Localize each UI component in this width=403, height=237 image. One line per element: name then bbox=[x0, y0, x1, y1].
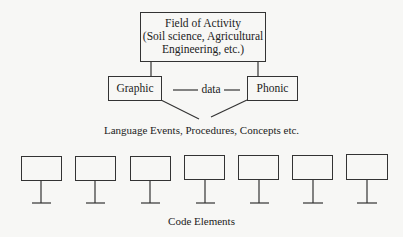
field-of-activity-examples-line2: Engineering, etc.) bbox=[140, 43, 266, 56]
phonic-label: Phonic bbox=[247, 82, 298, 95]
code-element-stems bbox=[32, 180, 377, 203]
code-element-box bbox=[346, 154, 388, 180]
code-element-box bbox=[130, 156, 171, 181]
code-element-box bbox=[238, 155, 279, 180]
code-element-box bbox=[21, 156, 62, 181]
field-of-activity-examples-line1: (Soil science, Agricultural bbox=[140, 30, 266, 43]
field-of-activity-title: Field of Activity bbox=[140, 17, 266, 30]
code-element-box bbox=[184, 155, 225, 180]
phonic-merge-line bbox=[211, 100, 247, 117]
code-element-box bbox=[292, 155, 333, 180]
graphic-merge-line bbox=[161, 100, 199, 119]
code-elements-caption: Code Elements bbox=[0, 215, 403, 228]
language-events-caption: Language Events, Procedures, Concepts et… bbox=[0, 124, 403, 137]
data-label: data bbox=[198, 83, 224, 96]
graphic-label: Graphic bbox=[108, 82, 162, 95]
code-element-box bbox=[75, 156, 116, 181]
